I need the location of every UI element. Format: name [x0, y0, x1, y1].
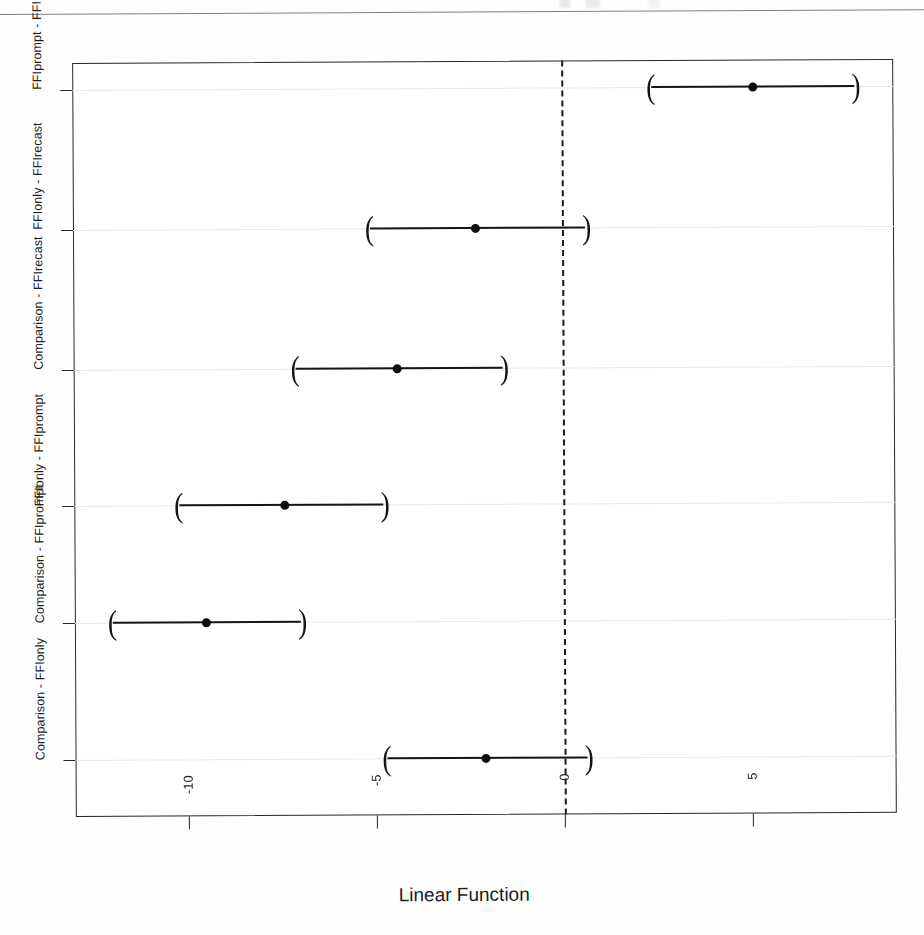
point-estimate-marker	[281, 500, 290, 509]
x-axis-tick-label-3: 5	[745, 773, 760, 780]
zero-reference-line	[561, 60, 567, 814]
confidence-interval-upper-bracket: )	[500, 351, 509, 385]
confidence-interval-lower-bracket: (	[175, 488, 184, 522]
gridline-group	[72, 59, 893, 63]
confidence-interval-upper-bracket: )	[380, 487, 389, 521]
x-axis-tick-label-2: 0	[557, 773, 572, 780]
y-axis-tick-label-1: FFIonly - FFIrecast	[30, 123, 45, 231]
point-estimate-marker	[471, 223, 480, 232]
confidence-interval-lower-bracket: (	[646, 70, 655, 104]
confidence-interval-group: ()()()()()()	[72, 59, 893, 63]
point-estimate-marker	[393, 364, 402, 373]
y-axis-tick	[61, 230, 73, 231]
confidence-interval-upper-bracket: )	[852, 69, 861, 103]
point-estimate-marker	[202, 618, 211, 627]
point-estimate-marker	[481, 753, 490, 762]
confidence-interval-lower-bracket: (	[108, 606, 117, 640]
confidence-interval-plot-figure: ()()()()()() FFIprompt - FFIrecastFFIonl…	[0, 0, 924, 935]
y-axis-tick-label-0: FFIprompt - FFIrecast	[30, 0, 45, 90]
confidence-interval-upper-bracket: )	[582, 210, 591, 244]
confidence-interval-lower-bracket: (	[291, 352, 300, 386]
y-axis-tick	[62, 370, 74, 371]
confidence-interval-upper-bracket: )	[298, 605, 307, 639]
y-axis-tick-label-4: Comparison - FFIprompt	[32, 485, 47, 623]
y-axis-tick	[60, 90, 72, 91]
x-axis-tick	[565, 814, 566, 827]
y-axis-tick	[64, 760, 76, 761]
point-estimate-marker	[749, 82, 758, 91]
x-axis-tick	[189, 816, 190, 829]
x-axis-tick	[753, 814, 754, 827]
x-axis-tick-label-0: -10	[181, 775, 196, 794]
y-axis-tick-label-5: Comparison - FFIonly	[33, 638, 48, 760]
confidence-interval-upper-bracket: )	[584, 740, 593, 774]
confidence-interval-lower-bracket: (	[365, 211, 374, 245]
x-tick-group	[72, 59, 893, 63]
y-axis-tick	[63, 623, 75, 624]
x-axis-tick	[377, 815, 378, 828]
y-tick-group	[72, 59, 893, 63]
x-axis-title: Linear Function	[2, 882, 924, 909]
x-axis-tick-label-1: -5	[369, 774, 384, 786]
plot-area: ()()()()()()	[72, 59, 897, 817]
y-axis-tick-label-2: Comparison - FFIrecast	[31, 237, 46, 371]
y-axis-tick	[62, 506, 74, 507]
confidence-interval-lower-bracket: (	[383, 741, 392, 775]
